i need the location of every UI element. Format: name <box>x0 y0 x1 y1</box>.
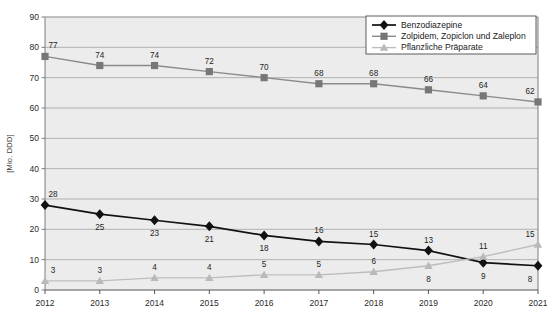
legend-label: Pflanzliche Präparate <box>401 42 483 52</box>
data-label: 18 <box>260 244 270 253</box>
x-tick-label: 2021 <box>529 298 547 308</box>
marker-square <box>206 68 213 75</box>
marker-square <box>315 80 322 87</box>
data-label: 16 <box>314 226 324 235</box>
data-label: 77 <box>48 41 58 50</box>
data-label: 21 <box>205 235 215 244</box>
y-tick-label: 90 <box>30 12 40 22</box>
x-tick-label: 2018 <box>364 298 383 308</box>
data-label: 5 <box>262 260 267 269</box>
data-label: 28 <box>48 190 58 199</box>
y-tick-label: 30 <box>30 194 40 204</box>
x-tick-label: 2017 <box>309 298 328 308</box>
chart-container: 0102030405060708090 20122013201420152016… <box>0 0 547 321</box>
marker-square <box>380 33 387 40</box>
legend-label: Zolpidem, Zopiclon und Zaleplon <box>401 31 526 41</box>
data-label: 8 <box>426 275 431 284</box>
data-label: 4 <box>152 263 157 272</box>
data-label: 3 <box>97 266 102 275</box>
data-label: 74 <box>150 51 160 60</box>
marker-square <box>425 86 432 93</box>
data-label: 9 <box>481 272 486 281</box>
x-tick-label: 2020 <box>474 298 493 308</box>
x-tick-label: 2016 <box>255 298 274 308</box>
data-label: 13 <box>424 236 434 245</box>
data-label: 15 <box>369 230 379 239</box>
data-label: 62 <box>525 87 535 96</box>
legend-label: Benzodiazepine <box>401 20 462 30</box>
y-axis-title-text: [Mio. DDD] <box>5 134 14 173</box>
data-label: 74 <box>95 51 105 60</box>
x-tick-label: 2013 <box>90 298 109 308</box>
marker-square <box>151 62 158 69</box>
plot-rect <box>45 17 538 290</box>
data-label: 8 <box>528 275 533 284</box>
y-tick-label: 70 <box>30 73 40 83</box>
y-tick-label: 0 <box>34 285 39 295</box>
y-tick-label: 20 <box>30 224 40 234</box>
x-tick-label: 2014 <box>145 298 164 308</box>
marker-square <box>261 74 268 81</box>
line-chart: 0102030405060708090 20122013201420152016… <box>0 0 547 321</box>
y-tick-label: 50 <box>30 133 40 143</box>
x-tick-label: 2019 <box>419 298 438 308</box>
data-label: 6 <box>371 257 376 266</box>
marker-square <box>41 53 48 60</box>
data-label: 66 <box>424 75 434 84</box>
data-label: 70 <box>260 63 270 72</box>
y-tick-label: 80 <box>30 42 40 52</box>
data-label: 5 <box>317 260 322 269</box>
data-label: 68 <box>314 69 324 78</box>
data-label: 15 <box>525 230 535 239</box>
marker-square <box>96 62 103 69</box>
y-axis-title: [Mio. DDD] <box>5 134 14 173</box>
x-tick-label: 2012 <box>36 298 55 308</box>
data-label: 23 <box>150 229 160 238</box>
data-label: 64 <box>479 81 489 90</box>
data-label: 4 <box>207 263 212 272</box>
data-label: 25 <box>95 223 105 232</box>
data-label: 68 <box>369 69 379 78</box>
x-tick-label: 2015 <box>200 298 219 308</box>
marker-square <box>480 92 487 99</box>
y-tick-label: 40 <box>30 164 40 174</box>
y-tick-label: 10 <box>30 255 40 265</box>
data-label: 3 <box>51 266 56 275</box>
data-label: 11 <box>479 242 488 251</box>
marker-square <box>534 98 541 105</box>
data-label: 72 <box>205 57 215 66</box>
y-tick-label: 60 <box>30 103 40 113</box>
plot-area-background <box>45 17 538 290</box>
chart-legend: BenzodiazepineZolpidem, Zopiclon und Zal… <box>366 16 536 54</box>
marker-square <box>370 80 377 87</box>
